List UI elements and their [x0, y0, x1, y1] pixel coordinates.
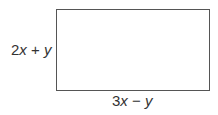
height-label: 2x + y: [11, 42, 51, 57]
rectangle: [56, 9, 210, 91]
width-label: 3x − y: [112, 93, 152, 108]
